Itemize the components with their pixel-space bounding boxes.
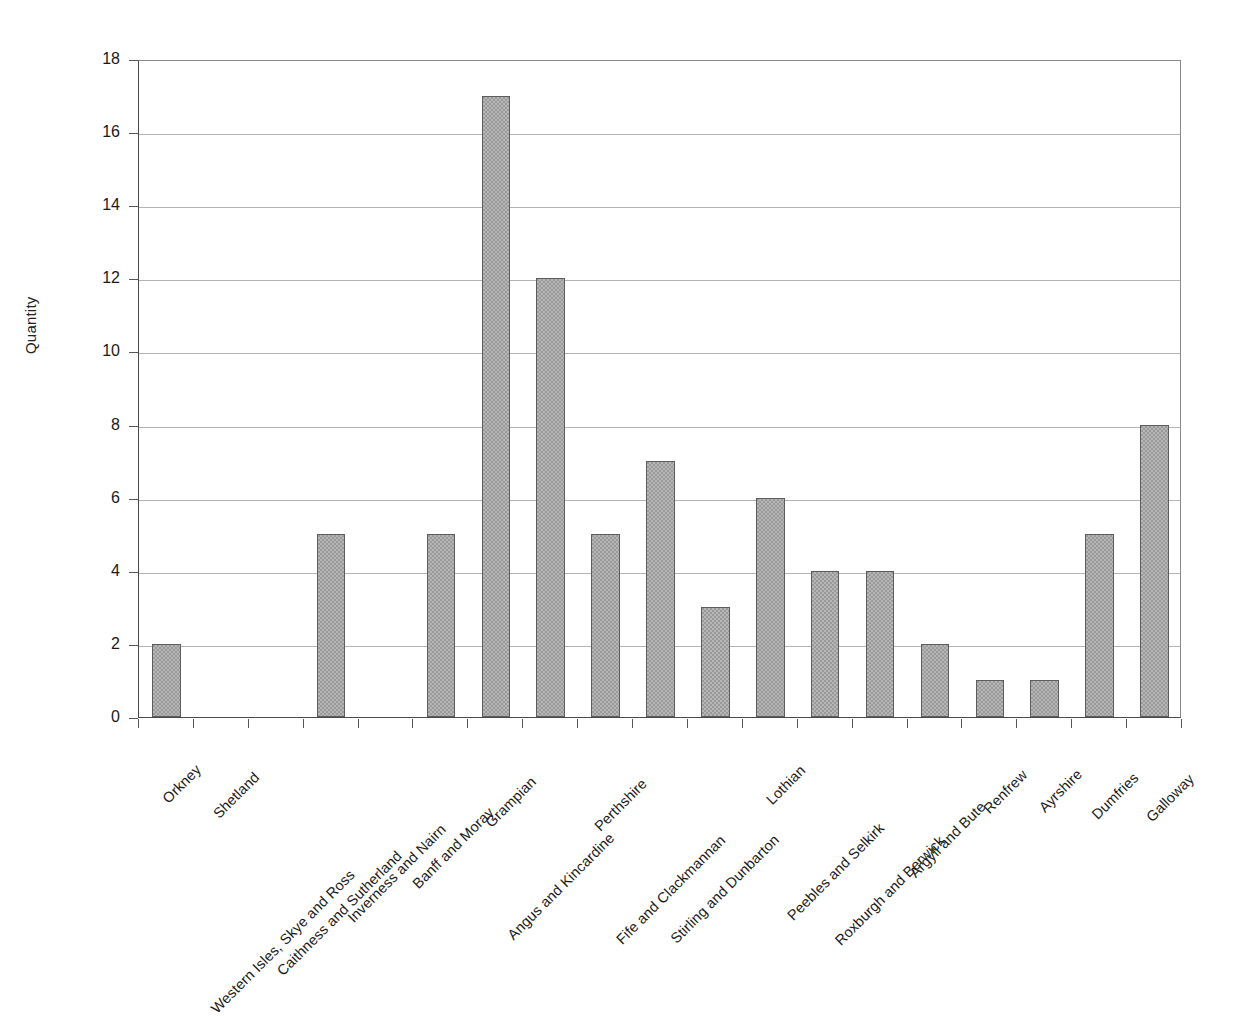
bar [427, 534, 456, 717]
x-axis-label: Ayrshire [1035, 766, 1084, 815]
bar [976, 680, 1005, 717]
y-axis-label: 16 [80, 123, 120, 141]
y-axis-label: 0 [80, 708, 120, 726]
x-axis-label: Fife and Clackmannan [613, 832, 728, 947]
x-axis-tick [358, 719, 359, 728]
x-axis-tick [961, 719, 962, 728]
bar [152, 644, 181, 717]
x-axis-tick [852, 719, 853, 728]
bar [921, 644, 950, 717]
y-axis-tick [129, 279, 138, 280]
x-axis-tick [1016, 719, 1017, 728]
y-axis-label-wrap: 0 [72, 718, 120, 719]
x-axis-label: Dumfries [1088, 770, 1141, 823]
bar [1140, 425, 1169, 717]
bar [811, 571, 840, 717]
y-axis-label: 4 [80, 562, 120, 580]
bar [646, 461, 675, 717]
bar [1085, 534, 1114, 717]
y-axis-label-wrap: 2 [72, 645, 120, 646]
y-axis-title: Quantity [22, 194, 46, 354]
bar [756, 498, 785, 717]
y-axis-tick [129, 133, 138, 134]
y-axis-label: 12 [80, 269, 120, 287]
y-axis-label-wrap: 16 [72, 133, 120, 134]
x-axis-tick [632, 719, 633, 728]
y-axis-label-wrap: 14 [72, 206, 120, 207]
y-axis-tick [129, 60, 138, 61]
x-axis-tick [742, 719, 743, 728]
x-axis-tick [412, 719, 413, 728]
x-axis-tick [1126, 719, 1127, 728]
y-axis-label-wrap: 8 [72, 426, 120, 427]
x-axis-tick [907, 719, 908, 728]
y-axis-label: 18 [80, 50, 120, 68]
x-axis-tick [303, 719, 304, 728]
y-axis-label: 2 [80, 635, 120, 653]
x-axis-label: Galloway [1143, 771, 1197, 825]
x-axis-label: Perthshire [591, 775, 650, 834]
x-axis-tick [687, 719, 688, 728]
y-axis-label: 6 [80, 489, 120, 507]
y-axis-tick [129, 572, 138, 573]
x-axis-tick [193, 719, 194, 728]
bar [536, 278, 565, 717]
y-axis-label-wrap: 18 [72, 60, 120, 61]
bar [482, 96, 511, 717]
x-axis-label: Orkney [160, 761, 205, 806]
y-axis-tick [129, 352, 138, 353]
y-axis-tick [129, 645, 138, 646]
y-axis-label-wrap: 6 [72, 499, 120, 500]
x-axis-tick [577, 719, 578, 728]
x-axis-tick [1071, 719, 1072, 728]
y-axis-label: 8 [80, 416, 120, 434]
y-axis-tick [129, 206, 138, 207]
bar [1030, 680, 1059, 717]
x-axis-tick [797, 719, 798, 728]
y-axis-tick [129, 718, 138, 719]
y-axis-label-wrap: 12 [72, 279, 120, 280]
bar [866, 571, 895, 717]
y-axis-label-wrap: 4 [72, 572, 120, 573]
x-axis-label: Lothian [763, 762, 808, 807]
bar [701, 607, 730, 717]
x-axis-tick [248, 719, 249, 728]
x-axis-label: Shetland [210, 769, 262, 821]
plot-area [138, 60, 1181, 718]
x-axis-tick [522, 719, 523, 728]
bar [317, 534, 346, 717]
y-axis-label-wrap: 10 [72, 352, 120, 353]
x-axis-label: Caithness and Sutherland [274, 848, 405, 979]
y-axis-label: 10 [80, 342, 120, 360]
x-axis-label: Western Isles, Skye and Ross [208, 867, 358, 1016]
x-axis-label: Argyll and Bute [907, 799, 989, 881]
x-axis-tick [467, 719, 468, 728]
bar-series [139, 61, 1180, 717]
x-axis-label: Stirling and Dunbarton [668, 832, 783, 947]
y-axis-tick [129, 426, 138, 427]
x-axis-label: Renfrew [980, 767, 1030, 817]
y-axis-label: 14 [80, 196, 120, 214]
x-axis-label: Angus and Kincardine [504, 830, 617, 943]
x-axis-tick [138, 719, 139, 728]
x-axis-tick [1181, 719, 1182, 728]
y-axis-tick [129, 499, 138, 500]
x-axis-label: Grampian [482, 774, 539, 831]
bar [591, 534, 620, 717]
